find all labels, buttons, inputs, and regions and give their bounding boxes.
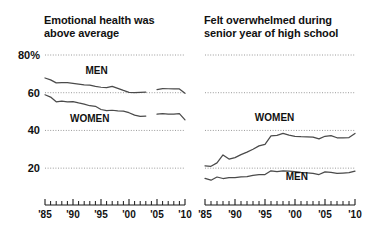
- data-line-women: [157, 114, 185, 120]
- x-axis-label-1990: '90: [66, 209, 80, 220]
- x-axis-label-2010: '10: [348, 209, 362, 220]
- y-axis-label-60: 60: [28, 87, 40, 99]
- x-axis-label-2005: '05: [318, 209, 332, 220]
- series-label-women: WOMEN: [255, 112, 294, 123]
- y-axis-label-20: 20: [28, 162, 40, 174]
- data-line-men: [45, 78, 146, 93]
- x-axis-label-2000: '00: [288, 209, 302, 220]
- series-label-women: WOMEN: [70, 113, 109, 124]
- chart-panel-felt-overwhelmed: Felt overwhelmed during senior year of h…: [192, 0, 366, 238]
- y-axis-label-40: 40: [28, 124, 40, 136]
- x-axis-label-1985: '85: [198, 209, 212, 220]
- chart-plot-emotional-health: 80%604020MENWOMEN'85'90'95'00'05'10: [0, 0, 192, 238]
- x-axis-label-1985: '85: [38, 209, 52, 220]
- x-axis-label-1995: '95: [94, 209, 108, 220]
- x-axis-label-1990: '90: [228, 209, 242, 220]
- x-axis-label-2010: '10: [178, 209, 192, 220]
- x-axis-label-2005: '05: [150, 209, 164, 220]
- x-axis-label-1995: '95: [258, 209, 272, 220]
- series-label-men: MEN: [85, 65, 107, 76]
- x-axis-label-2000: '00: [122, 209, 136, 220]
- y-axis-label-80: 80%: [18, 49, 40, 61]
- data-line-women: [205, 133, 355, 166]
- data-line-men: [205, 171, 355, 180]
- chart-plot-felt-overwhelmed: WOMENMEN'85'90'95'00'05'10: [192, 0, 366, 238]
- chart-figure: Emotional health was above average 80%60…: [0, 0, 366, 238]
- chart-panel-emotional-health: Emotional health was above average 80%60…: [0, 0, 192, 238]
- series-label-men: MEN: [286, 171, 308, 182]
